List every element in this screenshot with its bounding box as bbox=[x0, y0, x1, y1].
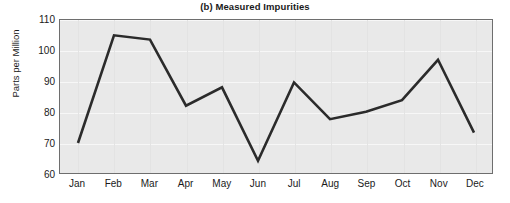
y-axis-label: Parts per Million bbox=[10, 9, 21, 119]
x-tick-label: Sep bbox=[346, 178, 386, 189]
y-tick-label: 110 bbox=[25, 14, 55, 25]
chart-figure: (b) Measured Impurities Parts per Millio… bbox=[0, 0, 510, 203]
y-tick-label: 90 bbox=[25, 76, 55, 87]
y-tick-label: 60 bbox=[25, 169, 55, 180]
x-tick-label: Jul bbox=[274, 178, 314, 189]
x-tick-label: Jun bbox=[238, 178, 278, 189]
x-tick-label: Mar bbox=[129, 178, 169, 189]
x-tick-label: Aug bbox=[310, 178, 350, 189]
x-tick-label: Feb bbox=[93, 178, 133, 189]
x-tick-label: May bbox=[202, 178, 242, 189]
y-tick-label: 100 bbox=[25, 45, 55, 56]
impurities-line bbox=[78, 35, 474, 160]
x-tick-label: Apr bbox=[166, 178, 206, 189]
x-tick-label: Dec bbox=[455, 178, 495, 189]
x-tick-label: Jan bbox=[57, 178, 97, 189]
line-series bbox=[60, 20, 492, 173]
chart-title: (b) Measured Impurities bbox=[0, 1, 510, 12]
x-axis-tick-labels: JanFebMarAprMayJunJulAugSepOctNovDec bbox=[59, 178, 493, 194]
x-tick-label: Oct bbox=[383, 178, 423, 189]
y-tick-label: 80 bbox=[25, 107, 55, 118]
plot-area bbox=[59, 19, 493, 174]
x-tick-label: Nov bbox=[419, 178, 459, 189]
y-axis-tick-labels: 60708090100110 bbox=[20, 19, 55, 174]
y-tick-label: 70 bbox=[25, 138, 55, 149]
